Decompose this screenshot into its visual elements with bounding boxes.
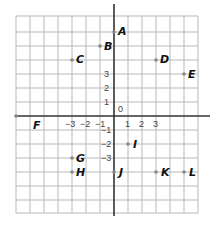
coordinate-plane: 0 −3 −2 −1 1 2 3 3 2 1 −1 −2 −3 A B C D … xyxy=(0,0,224,225)
y-tick-3: 3 xyxy=(104,69,109,79)
svg-text:H: H xyxy=(76,166,85,179)
origin-label: 0 xyxy=(118,104,123,114)
svg-text:A: A xyxy=(117,25,127,38)
y-tick-2: 2 xyxy=(104,83,109,93)
svg-text:C: C xyxy=(76,53,84,66)
svg-text:G: G xyxy=(76,152,85,165)
x-tick-3: 3 xyxy=(153,119,158,129)
svg-text:D: D xyxy=(160,53,169,66)
svg-text:B: B xyxy=(104,40,112,53)
svg-text:K: K xyxy=(161,166,171,179)
x-tick-1: 1 xyxy=(125,119,130,129)
svg-text:E: E xyxy=(188,68,196,81)
svg-text:F: F xyxy=(33,119,41,132)
x-tick-neg2: −2 xyxy=(80,119,90,129)
point-K: K xyxy=(154,166,171,179)
svg-text:I: I xyxy=(133,138,137,151)
svg-text:L: L xyxy=(189,166,196,179)
x-tick-2: 2 xyxy=(139,119,144,129)
point-F: F xyxy=(14,114,41,132)
y-tick-neg1: −1 xyxy=(101,125,111,135)
x-tick-neg3: −3 xyxy=(65,119,75,129)
y-tick-1: 1 xyxy=(104,97,109,107)
y-tick-neg2: −2 xyxy=(101,139,111,149)
y-tick-neg3: −3 xyxy=(101,153,111,163)
